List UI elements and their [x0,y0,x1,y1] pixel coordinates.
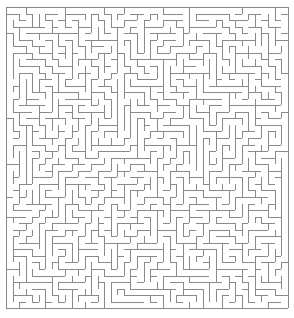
maze-figure [0,0,294,318]
maze-canvas [0,0,294,318]
